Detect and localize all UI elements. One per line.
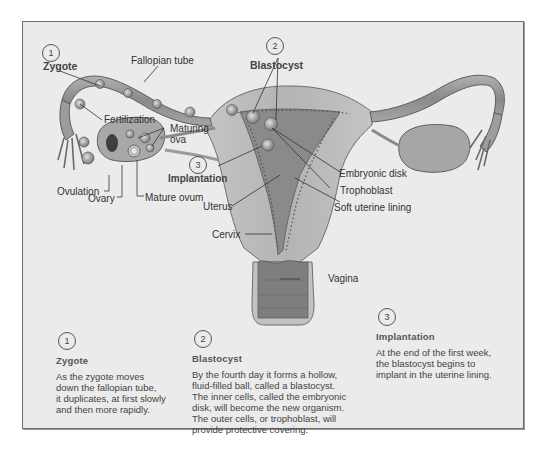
step-title: Zygote bbox=[56, 355, 166, 366]
marker-blastocyst: 2 bbox=[266, 37, 284, 55]
label-mature-ovum: Mature ovum bbox=[145, 192, 203, 203]
step-implantation: 3 Implantation At the end of the first w… bbox=[376, 308, 492, 380]
label-maturing-ova-line1: Maturing bbox=[170, 123, 209, 134]
label-fallopian-tube: Fallopian tube bbox=[131, 55, 194, 66]
label-uterus: Uterus bbox=[203, 201, 232, 212]
vagina bbox=[252, 261, 314, 325]
label-fertilization: Fertilization bbox=[104, 114, 155, 125]
step-number: 1 bbox=[58, 332, 76, 350]
label-trophoblast: Trophoblast bbox=[340, 185, 392, 196]
step-number: 2 bbox=[194, 330, 212, 348]
step-body: At the end of the first week, the blasto… bbox=[376, 347, 492, 380]
label-cervix: Cervix bbox=[212, 229, 240, 240]
label-vagina: Vagina bbox=[328, 273, 358, 284]
label-blastocyst: Blastocyst bbox=[250, 60, 303, 71]
label-maturing-ova-line2: ova bbox=[170, 134, 186, 145]
step-title: Implantation bbox=[376, 331, 492, 342]
step-body: By the fourth day it forms a hollow, flu… bbox=[192, 369, 346, 435]
step-title: Blastocyst bbox=[192, 353, 346, 364]
label-soft-uterine-lining: Soft uterine lining bbox=[334, 202, 411, 213]
label-ovary: Ovary bbox=[88, 193, 115, 204]
step-body: As the zygote moves down the fallopian t… bbox=[56, 371, 166, 415]
label-implantation: Implantation bbox=[168, 173, 227, 184]
step-number: 3 bbox=[378, 308, 396, 326]
right-ovary bbox=[372, 125, 470, 173]
step-blastocyst: 2 Blastocyst By the fourth day it forms … bbox=[192, 330, 346, 435]
marker-implantation: 3 bbox=[189, 156, 207, 174]
label-zygote: Zygote bbox=[43, 61, 77, 72]
step-zygote: 1 Zygote As the zygote moves down the fa… bbox=[56, 332, 166, 415]
label-embryonic-disk: Embryonic disk bbox=[339, 168, 407, 179]
